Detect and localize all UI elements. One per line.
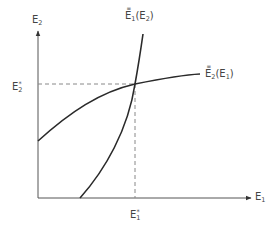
e1-curve-label-base: E: [125, 11, 131, 21]
y-axis-label-sub: 2: [38, 19, 42, 27]
e1-curve-label-arg-close: ): [150, 10, 154, 21]
e1-star-label-sup: *: [136, 208, 139, 216]
e1-curve-label: E1(E2): [125, 11, 154, 24]
e1-star-label: E1*: [130, 207, 140, 223]
x-axis-label: E1: [255, 192, 265, 205]
e2-curve-label-arg-open: (E: [215, 68, 225, 79]
e2-curve-label-base: E: [205, 69, 211, 79]
e1-reaction-curve: [80, 34, 143, 198]
x-axis-label-sub: 1: [261, 196, 265, 204]
e1-curve-label-arg-open: (E: [135, 10, 145, 21]
e2-curve-label-arg-close: ): [230, 68, 234, 79]
e2-star-label: E2*: [12, 79, 22, 95]
diagram-canvas: [0, 0, 272, 229]
e2-star-label-sup: *: [18, 80, 21, 88]
e2-curve-label: E2(E1): [205, 69, 234, 82]
y-axis-label: E2: [32, 15, 42, 28]
